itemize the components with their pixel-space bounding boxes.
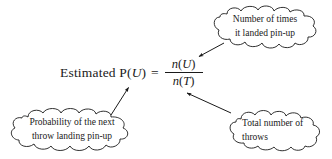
denominator-close-paren: ) (190, 74, 194, 88)
arrow-to-denominator (187, 93, 231, 113)
callout-cloud-number-of-times: Number of times it landed pin-up (211, 5, 319, 49)
callout-line-2: throws (242, 131, 268, 145)
callout-text: Number of times it landed pin-up (211, 5, 319, 49)
equation-lhs-close-paren: ) (142, 66, 147, 80)
equation: Estimated P(U) = n(U) n(T) (60, 57, 203, 88)
fraction-denominator: n(T) (171, 73, 197, 88)
probability-formula-figure: Estimated P(U) = n(U) n(T) Number of tim… (0, 0, 332, 159)
callout-line-2: throw landing pin-up (32, 130, 112, 144)
numerator-close-paren: ) (191, 57, 195, 71)
callout-text: Probability of the next throw landing pi… (10, 107, 134, 152)
callout-cloud-total-number-of-throws: Total number of throws (226, 110, 322, 152)
fraction: n(U) n(T) (165, 57, 203, 88)
callout-cloud-probability-next-throw: Probability of the next throw landing pi… (10, 107, 134, 152)
callout-text: Total number of throws (226, 110, 322, 152)
callout-line-1: Total number of (242, 117, 303, 131)
numerator-variable: U (182, 57, 191, 71)
callout-line-1: Probability of the next (29, 116, 114, 130)
callout-line-2: it landed pin-up (235, 27, 295, 41)
equation-lhs-label: Estimated P( (60, 66, 132, 80)
equation-lhs-variable: U (132, 66, 142, 80)
callout-line-1: Number of times (233, 13, 297, 27)
fraction-numerator: n(U) (170, 57, 198, 72)
equals-sign: = (151, 66, 159, 80)
